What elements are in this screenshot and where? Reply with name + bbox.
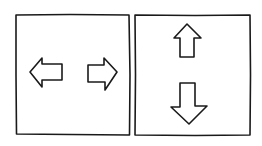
arrow-left-icon bbox=[30, 58, 62, 87]
arrow-right-icon bbox=[88, 58, 117, 90]
diagram-canvas bbox=[0, 0, 262, 146]
arrow-up-icon bbox=[174, 24, 201, 57]
vertical-panel bbox=[135, 15, 251, 136]
arrow-down-icon bbox=[171, 83, 207, 124]
horizontal-panel bbox=[16, 15, 130, 136]
